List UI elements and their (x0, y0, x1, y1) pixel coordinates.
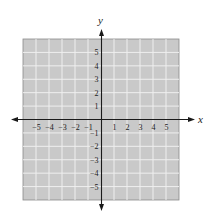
x-axis-label: x (197, 113, 203, 125)
y-tick-label: 5 (95, 48, 99, 57)
x-tick-label: −3 (58, 123, 67, 132)
x-tick-label: 2 (126, 123, 130, 132)
y-tick-label: −5 (90, 183, 99, 192)
y-tick-label: −3 (90, 156, 99, 165)
y-tick-label: 1 (95, 102, 99, 111)
x-tick-label: −4 (45, 123, 54, 132)
y-tick-label: −1 (90, 129, 99, 138)
y-axis-label: y (97, 14, 103, 26)
y-tick-label: 3 (95, 75, 99, 84)
y-tick-label: 4 (95, 62, 99, 71)
x-tick-label: 4 (152, 123, 156, 132)
coordinate-plane: x y −5−4−3−2−112345 54321−1−2−3−4−5 (0, 0, 210, 216)
y-axis-up-arrow-icon (99, 29, 104, 36)
y-tick-label: −4 (90, 169, 99, 178)
x-axis-right-arrow-icon (188, 117, 195, 122)
x-tick-label: 5 (165, 123, 169, 132)
x-tick-label: −2 (71, 123, 80, 132)
x-tick-label: 1 (113, 123, 117, 132)
x-tick-label: 3 (139, 123, 143, 132)
x-axis-left-arrow-icon (11, 117, 18, 122)
y-tick-label: −2 (90, 142, 99, 151)
y-axis-down-arrow-icon (99, 204, 104, 211)
y-tick-label: 2 (95, 89, 99, 98)
x-tick-label: −5 (32, 123, 41, 132)
